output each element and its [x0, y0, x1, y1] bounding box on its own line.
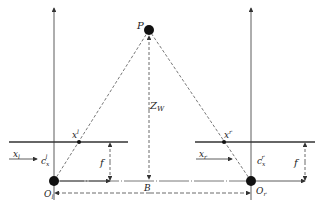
label-f-right: f [293, 157, 300, 168]
label-x-left: xl [13, 149, 20, 160]
label-xr: xr [224, 128, 233, 140]
label-zw: ZW [149, 100, 165, 113]
stereo-diagram: P ZW xl xr xl xr cxl cxr f f B Ol Or [0, 0, 323, 211]
label-cx-left: cxl [41, 153, 50, 167]
label-xl: xl [72, 128, 79, 140]
point-p [144, 25, 154, 35]
label-x-right: xr [199, 149, 208, 160]
label-ol: Ol [44, 189, 53, 200]
right-camera-center [246, 176, 256, 186]
left-camera-center [49, 176, 59, 186]
label-b: B [143, 183, 151, 193]
label-cx-right: cxr [257, 153, 266, 167]
left-image-point [77, 140, 81, 144]
label-or: Or [256, 186, 267, 197]
diagram-canvas: P ZW xl xr xl xr cxl cxr f f B Ol Or [0, 0, 323, 211]
label-p: P [136, 20, 144, 31]
label-f-left: f [99, 157, 106, 168]
right-image-point [222, 140, 226, 144]
